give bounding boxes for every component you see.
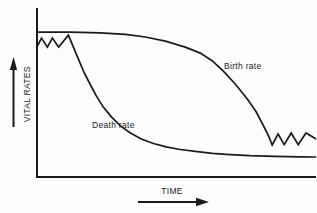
y-axis-label: VITAL RATES xyxy=(23,59,32,129)
x-axis-right-arrow-icon xyxy=(138,198,209,206)
death-rate-curve xyxy=(37,35,317,157)
axes-lines xyxy=(37,8,316,177)
y-axis-up-arrow-icon xyxy=(10,57,17,127)
birth-rate-curve-label: Birth rate xyxy=(224,62,262,71)
vital-rates-chart xyxy=(0,0,317,213)
demographic-transition-figure: VITAL RATES TIME Birth rate Death rate xyxy=(0,0,317,213)
x-axis-label: TIME xyxy=(150,187,194,196)
death-rate-curve-label: Death rate xyxy=(92,121,135,130)
birth-rate-curve xyxy=(37,32,317,145)
